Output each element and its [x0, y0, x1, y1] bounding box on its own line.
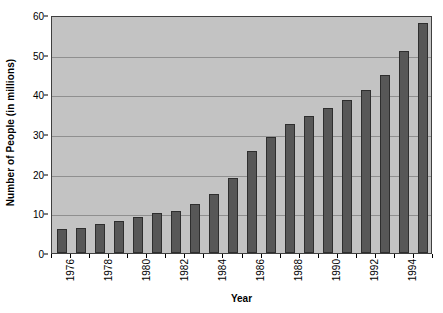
bar-slot [262, 17, 281, 253]
x-axis-tick-mark [413, 254, 414, 258]
x-axis-tick-mark [89, 254, 90, 258]
y-axis-tick-label: 60 [33, 11, 44, 22]
x-axis-tick-label: 1982 [179, 259, 190, 281]
bar[interactable] [342, 100, 352, 253]
bar[interactable] [247, 151, 257, 253]
bar[interactable] [399, 51, 409, 253]
bar-slot [414, 17, 432, 253]
bar[interactable] [114, 221, 124, 253]
y-axis-tick-label: 40 [33, 90, 44, 101]
x-axis-tick-label: 1988 [293, 259, 304, 281]
bar-slot [166, 17, 185, 253]
bar[interactable] [152, 213, 162, 253]
bar-slot [185, 17, 204, 253]
x-axis-tick-mark [356, 254, 357, 258]
bar-slot [243, 17, 262, 253]
bar-slot [319, 17, 338, 253]
x-axis-tick-mark [108, 254, 109, 258]
bar-slot [71, 17, 90, 253]
x-axis-tick-mark [318, 254, 319, 258]
x-axis-tick-labels: 1976197819801982198419861988199019921994 [51, 259, 432, 295]
x-axis-tick-mark [261, 254, 262, 258]
x-axis-tick-mark [394, 254, 395, 258]
bar[interactable] [133, 217, 143, 253]
x-axis-tick-label: 1990 [331, 259, 342, 281]
x-axis-tick-label: 1984 [217, 259, 228, 281]
bar-slot [109, 17, 128, 253]
bar-slot [90, 17, 109, 253]
x-axis-tick-mark [165, 254, 166, 258]
bar[interactable] [228, 178, 238, 253]
x-axis-tick-label: 1978 [103, 259, 114, 281]
x-axis-tick-mark [184, 254, 185, 258]
bar-chart: Number of People (in millions) 010203040… [0, 0, 443, 313]
y-axis-title-text: Number of People (in millions) [6, 59, 17, 206]
y-axis-tick-label: 20 [33, 169, 44, 180]
y-axis-tick-mark [44, 16, 48, 17]
bar-slot [395, 17, 414, 253]
y-axis-tick-label: 30 [33, 130, 44, 141]
bars-layer [52, 17, 431, 253]
x-axis-tick-mark [375, 254, 376, 258]
bar-slot [204, 17, 223, 253]
bar[interactable] [380, 75, 390, 254]
x-axis-tick-mark [127, 254, 128, 258]
x-axis-tick-label: 1986 [255, 259, 266, 281]
bar[interactable] [266, 137, 276, 253]
bar[interactable] [57, 229, 67, 253]
bar[interactable] [304, 116, 314, 253]
bar-slot [223, 17, 242, 253]
bar-slot [147, 17, 166, 253]
y-axis-tick-mark [44, 135, 48, 136]
y-axis-tick-mark [44, 55, 48, 56]
y-axis-tick-mark [44, 214, 48, 215]
y-axis-title: Number of People (in millions) [0, 0, 22, 265]
x-axis-title: Year [51, 293, 432, 304]
bar-slot [52, 17, 71, 253]
bar[interactable] [361, 90, 371, 253]
y-axis-tick-mark [44, 254, 48, 255]
x-axis-tick-mark [337, 254, 338, 258]
bar[interactable] [76, 228, 86, 253]
y-axis-tick-mark [44, 95, 48, 96]
x-axis-tick-label: 1980 [141, 259, 152, 281]
bar-slot [300, 17, 319, 253]
y-axis-tick-mark [44, 174, 48, 175]
bar[interactable] [190, 204, 200, 253]
x-axis-tick-mark [242, 254, 243, 258]
bar[interactable] [209, 194, 219, 254]
x-axis-tick-mark [70, 254, 71, 258]
bar-slot [338, 17, 357, 253]
bar-slot [357, 17, 376, 253]
x-axis-tick-label: 1976 [65, 259, 76, 281]
x-axis-tick-mark [432, 254, 433, 258]
x-axis-tick-label: 1994 [407, 259, 418, 281]
y-axis-tick-labels: 0102030405060 [22, 16, 48, 254]
bar[interactable] [171, 211, 181, 253]
x-axis-tick-mark [222, 254, 223, 258]
y-axis-tick-label: 50 [33, 50, 44, 61]
x-axis-tick-mark [280, 254, 281, 258]
bar[interactable] [95, 224, 105, 253]
y-axis-tick-label: 10 [33, 209, 44, 220]
x-axis-tick-mark [203, 254, 204, 258]
x-axis-tick-mark [146, 254, 147, 258]
bar[interactable] [323, 108, 333, 253]
bar-slot [281, 17, 300, 253]
bar-slot [128, 17, 147, 253]
bar-slot [376, 17, 395, 253]
x-axis-tick-mark [51, 254, 52, 258]
x-axis-tick-label: 1992 [369, 259, 380, 281]
plot-area [51, 16, 432, 254]
bar[interactable] [285, 124, 295, 253]
bar[interactable] [418, 23, 428, 253]
x-axis-tick-mark [299, 254, 300, 258]
